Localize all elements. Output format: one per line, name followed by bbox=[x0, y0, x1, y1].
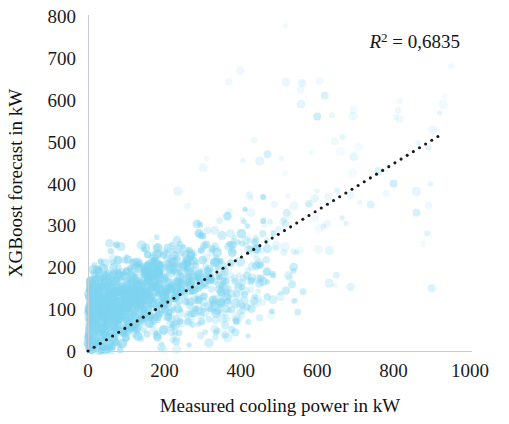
scatter-point bbox=[255, 156, 264, 165]
trendline-dot bbox=[314, 210, 317, 213]
scatter-point bbox=[100, 286, 106, 292]
scatter-point bbox=[268, 295, 277, 304]
scatter-point bbox=[314, 245, 323, 254]
scatter-point bbox=[132, 312, 140, 320]
scatter-point bbox=[116, 300, 123, 307]
scatter-point bbox=[105, 298, 114, 307]
scatter-point bbox=[329, 112, 335, 118]
trendline-dot bbox=[381, 169, 384, 172]
trendline-dot bbox=[252, 248, 255, 251]
scatter-point bbox=[343, 221, 348, 226]
trendline-dot bbox=[338, 195, 341, 198]
scatter-point bbox=[275, 226, 281, 232]
scatter-point bbox=[184, 203, 191, 210]
scatter-point bbox=[98, 258, 104, 264]
scatter-point bbox=[357, 200, 362, 205]
scatter-point bbox=[124, 253, 129, 258]
scatter-point bbox=[420, 241, 427, 248]
scatter-point bbox=[290, 298, 296, 304]
scatter-point bbox=[198, 256, 207, 265]
y-tick-label: 600 bbox=[48, 90, 77, 111]
scatter-point bbox=[259, 248, 266, 255]
scatter-point bbox=[154, 244, 161, 251]
scatter-point bbox=[350, 106, 358, 114]
scatter-point bbox=[424, 230, 430, 236]
scatter-point bbox=[196, 321, 201, 326]
scatter-point bbox=[150, 297, 156, 303]
scatter-point bbox=[122, 303, 130, 311]
scatter-point bbox=[141, 320, 147, 326]
scatter-point bbox=[315, 76, 324, 85]
trendline-dot bbox=[209, 274, 212, 277]
scatter-point bbox=[172, 345, 181, 354]
scatter-point bbox=[286, 274, 293, 281]
trendline-dot bbox=[228, 263, 231, 266]
scatter-point bbox=[395, 115, 403, 123]
scatter-point bbox=[204, 267, 210, 273]
trendline-dot bbox=[363, 180, 366, 183]
scatter-point bbox=[347, 191, 355, 199]
scatter-point bbox=[193, 306, 199, 312]
scatter-point bbox=[212, 334, 218, 340]
scatter-point bbox=[102, 294, 107, 299]
scatter-point bbox=[243, 242, 248, 247]
scatter-point bbox=[272, 245, 278, 251]
scatter-point bbox=[289, 263, 298, 272]
x-tick-label: 1000 bbox=[451, 360, 489, 381]
trendline-dot bbox=[375, 173, 378, 176]
scatter-point bbox=[263, 270, 270, 277]
scatter-point bbox=[207, 249, 215, 257]
scatter-point bbox=[150, 251, 155, 256]
scatter-point bbox=[170, 337, 176, 343]
scatter-point bbox=[300, 288, 307, 295]
scatter-point bbox=[218, 314, 227, 323]
scatter-point bbox=[151, 257, 161, 267]
scatter-point bbox=[245, 234, 251, 240]
y-tick-label: 200 bbox=[48, 257, 77, 278]
trendline-dot bbox=[289, 225, 292, 228]
scatter-point bbox=[143, 331, 150, 338]
scatter-point bbox=[164, 243, 173, 252]
trendline-dot bbox=[160, 304, 163, 307]
scatter-point bbox=[237, 308, 244, 315]
scatter-point bbox=[177, 318, 183, 324]
y-axis-title: XGBoost forecast in kW bbox=[5, 89, 26, 277]
scatter-point bbox=[113, 241, 120, 248]
scatter-point bbox=[172, 329, 178, 335]
scatter-point bbox=[108, 254, 117, 263]
scatter-point bbox=[321, 92, 329, 100]
scatter-point bbox=[290, 248, 296, 254]
scatter-point bbox=[223, 333, 232, 342]
scatter-point bbox=[264, 150, 272, 158]
scatter-point bbox=[255, 289, 261, 295]
scatter-point bbox=[214, 259, 221, 266]
scatter-point bbox=[198, 163, 207, 172]
trendline-dot bbox=[307, 214, 310, 217]
scatter-point bbox=[261, 216, 266, 221]
trendline-dot bbox=[283, 229, 286, 232]
y-tick-label: 500 bbox=[48, 132, 77, 153]
x-tick-label: 0 bbox=[83, 360, 93, 381]
scatter-point bbox=[90, 297, 97, 304]
trendline-dot bbox=[295, 222, 298, 225]
scatter-point bbox=[251, 137, 258, 144]
scatter-point bbox=[283, 209, 291, 217]
scatter-point bbox=[246, 208, 255, 217]
scatter-point bbox=[118, 339, 127, 348]
scatter-point bbox=[216, 247, 221, 252]
scatter-point bbox=[332, 283, 337, 288]
scatter-point bbox=[426, 145, 432, 151]
trendline-dot bbox=[222, 267, 225, 270]
r-squared-symbol: R bbox=[368, 31, 381, 52]
scatter-point bbox=[231, 278, 238, 285]
scatter-point bbox=[245, 223, 250, 228]
scatter-point bbox=[396, 98, 402, 104]
scatter-point bbox=[448, 63, 454, 69]
scatter-point bbox=[115, 264, 121, 270]
trendline-dot bbox=[111, 334, 114, 337]
scatter-point bbox=[285, 193, 291, 199]
scatter-point bbox=[225, 78, 232, 85]
scatter-point bbox=[154, 268, 163, 277]
scatter-point bbox=[145, 267, 151, 273]
scatter-point bbox=[177, 307, 183, 313]
